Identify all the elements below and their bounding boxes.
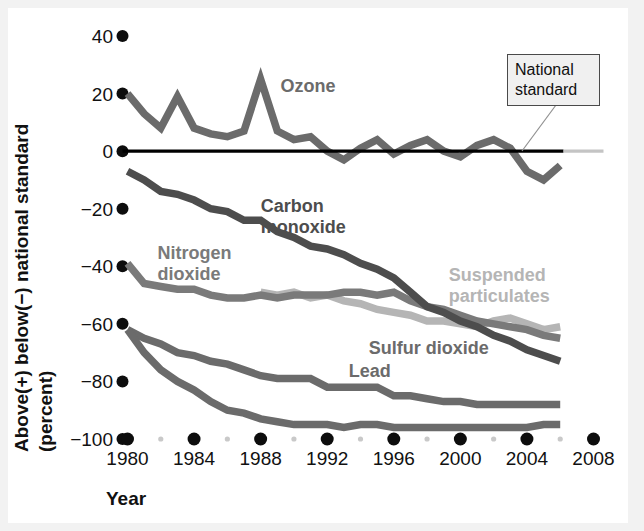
- y-tick-label: 0: [102, 141, 113, 162]
- y-axis-ticks: 40200−20−40−60−80−100: [70, 26, 128, 450]
- y-tick-label: −100: [70, 429, 113, 450]
- series-label-ozone: Ozone: [281, 76, 336, 96]
- y-axis-title-line2: (percent): [35, 371, 56, 452]
- x-tick-label: 2004: [506, 448, 549, 469]
- chart-figure: 40200−20−40−60−80−100 198019841988199219…: [0, 0, 644, 531]
- x-tick-label: 2000: [439, 448, 481, 469]
- x-minor-tick-dot: [424, 436, 429, 441]
- x-tick-label: 1996: [373, 448, 415, 469]
- x-tick-dot: [321, 433, 334, 446]
- series-label-nitrogen-dioxide-line2: dioxide: [157, 264, 220, 284]
- x-minor-tick-dot: [291, 436, 296, 441]
- x-tick-label: 1992: [306, 448, 348, 469]
- x-axis-title: Year: [106, 488, 147, 509]
- series-label-lead: Lead: [349, 361, 391, 381]
- x-minor-tick-dot: [358, 436, 363, 441]
- x-minor-tick-dot: [225, 436, 230, 441]
- y-tick-label: −20: [81, 199, 113, 220]
- x-tick-label: 1988: [240, 448, 282, 469]
- y-tick-label: 20: [92, 84, 113, 105]
- x-minor-tick-dot: [491, 436, 496, 441]
- x-tick-dot: [387, 433, 400, 446]
- callout-leader-line: [522, 105, 556, 151]
- series-label-sulfur-dioxide: Sulfur dioxide: [369, 338, 489, 358]
- callout-text-line1: National: [515, 60, 599, 80]
- series-line-ozone: [128, 79, 561, 180]
- y-tick-label: −80: [81, 371, 113, 392]
- series-label-nitrogen-dioxide: Nitrogen: [157, 243, 231, 263]
- national-standard-callout: National standard: [507, 54, 600, 106]
- x-minor-tick-dot: [158, 436, 163, 441]
- x-tick-dot: [520, 433, 533, 446]
- y-tick-dot: [117, 318, 129, 330]
- y-axis-title-line1: Above(+) below(−) national standard: [11, 124, 32, 452]
- y-tick-label: 40: [92, 26, 113, 47]
- y-tick-label: −40: [81, 256, 113, 277]
- x-tick-label: 1984: [173, 448, 216, 469]
- callout-text-line2: standard: [515, 80, 599, 100]
- series-line-lead: [128, 330, 561, 428]
- series-label-carbon-monoxide: Carbon: [261, 196, 324, 216]
- x-tick-dot: [188, 433, 201, 446]
- y-tick-label: −60: [81, 314, 113, 335]
- x-tick-dot: [254, 433, 267, 446]
- series-label-suspended-particulates: Suspended: [449, 265, 546, 285]
- series-label-carbon-monoxide-line2: monoxide: [261, 217, 346, 237]
- x-tick-label: 1980: [106, 448, 148, 469]
- x-tick-label: 2008: [572, 448, 614, 469]
- y-tick-dot: [117, 203, 129, 215]
- series-label-suspended-particulates-line2: particulates: [449, 286, 550, 306]
- x-axis-minor-ticks: [158, 436, 563, 441]
- y-tick-dot: [117, 375, 129, 387]
- x-tick-dot: [587, 433, 600, 446]
- x-minor-tick-dot: [558, 436, 563, 441]
- y-tick-dot: [117, 30, 129, 42]
- x-tick-dot: [454, 433, 467, 446]
- x-tick-dot: [121, 433, 134, 446]
